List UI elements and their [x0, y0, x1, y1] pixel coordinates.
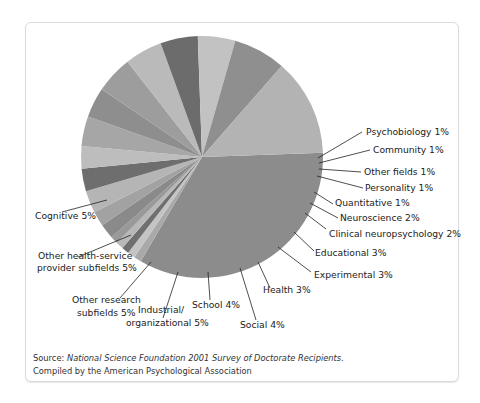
label-quantitative: Quantitative 1% [335, 197, 410, 208]
source-title: National Science Foundation 2001 Survey … [67, 353, 344, 363]
label-social: Social 4% [240, 319, 285, 330]
label-experimental: Experimental 3% [314, 269, 393, 280]
label-cognitive: Cognitive 5% [35, 210, 96, 221]
label-educational: Educational 3% [315, 247, 387, 258]
label-other-hsp-1: Other health-service [38, 250, 133, 261]
label-other-research-2: subfields 5% [77, 307, 136, 318]
label-community: Community 1% [373, 144, 444, 155]
label-health: Health 3% [263, 284, 311, 295]
source-prefix: Source: [33, 353, 67, 363]
pie-slices [81, 36, 323, 278]
label-clinical-neuropsychology: Clinical neuropsychology 2% [329, 228, 461, 239]
label-other-hsp-2: provider subfields 5% [37, 262, 137, 273]
source-compiled: Compiled by the American Psychological A… [33, 366, 252, 376]
pie-chart: Psychobiology 1% Community 1% Other fiel… [0, 0, 480, 403]
label-school: School 4% [192, 299, 240, 310]
label-industrial-2: organizational 5% [126, 317, 209, 328]
label-other-research-1: Other research [72, 294, 141, 305]
label-psychobiology: Psychobiology 1% [366, 126, 449, 137]
label-personality: Personality 1% [365, 182, 433, 193]
label-other-fields: Other fields 1% [364, 166, 435, 177]
label-neuroscience: Neuroscience 2% [340, 212, 420, 223]
source-note: Source: National Science Foundation 2001… [33, 352, 344, 378]
label-industrial-1: Industrial/ [138, 304, 185, 315]
